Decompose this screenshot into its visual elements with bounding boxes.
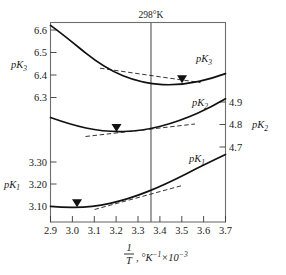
left-axis-lower-ticklabels: 3.30 3.20 3.10 bbox=[29, 157, 47, 213]
left-tick-label: 6.5 bbox=[34, 47, 47, 58]
x-tick-label: 2.9 bbox=[44, 225, 57, 236]
left-axis-lower-title: pK1 bbox=[3, 179, 20, 193]
x-tick-label: 3.1 bbox=[88, 225, 101, 236]
x-axis-title: 1 T , °K−1×10−3 bbox=[124, 242, 188, 266]
x-tick-label: 3.3 bbox=[131, 225, 144, 236]
right-tick-label: 4.7 bbox=[229, 142, 242, 153]
x-tick-label: 3.2 bbox=[110, 225, 123, 236]
x-tick-label: 3.6 bbox=[197, 225, 210, 236]
left-tick-label: 6.3 bbox=[34, 92, 47, 103]
x-axis-title-numerator: 1 bbox=[126, 242, 131, 253]
left-tick-label: 3.30 bbox=[29, 157, 47, 168]
x-axis-title-units: , °K−1×10−3 bbox=[136, 250, 188, 263]
x-tick-label: 3.0 bbox=[66, 225, 79, 236]
right-axis-title: pK2 bbox=[251, 119, 268, 133]
left-tick-label: 3.20 bbox=[29, 179, 47, 190]
pk-vs-inverse-temperature-chart: 6.6 6.5 6.4 6.3 pK3 3.30 3.20 3.10 pK1 4… bbox=[0, 0, 286, 275]
left-tick-label: 6.6 bbox=[34, 25, 47, 36]
left-tick-label: 3.10 bbox=[29, 201, 47, 212]
x-tick-label: 3.5 bbox=[175, 225, 188, 236]
figure-container: 6.6 6.5 6.4 6.3 pK3 3.30 3.20 3.10 pK1 4… bbox=[0, 0, 286, 275]
x-tick-marks bbox=[51, 216, 226, 222]
pk1-tangent-line bbox=[95, 186, 182, 210]
x-axis-title-denominator: T bbox=[126, 255, 133, 266]
right-axis-ticklabels: 4.9 4.8 4.7 bbox=[229, 97, 242, 153]
pk3-curve-label: pK3 bbox=[195, 53, 212, 67]
x-axis-ticklabels: 2.9 3.0 3.1 3.2 3.3 3.4 3.5 3.6 3.7 bbox=[44, 225, 232, 236]
x-tick-label: 3.7 bbox=[219, 225, 232, 236]
temperature-annotation-label: 298°K bbox=[139, 10, 164, 20]
right-tick-label: 4.8 bbox=[229, 119, 242, 130]
left-axis-upper-ticklabels: 6.6 6.5 6.4 6.3 bbox=[34, 25, 48, 104]
right-tick-label: 4.9 bbox=[229, 97, 242, 108]
x-tick-label: 3.4 bbox=[153, 225, 167, 236]
left-tick-label: 6.4 bbox=[34, 70, 48, 81]
pk1-curve-label: pK1 bbox=[188, 153, 205, 167]
right-tick-marks bbox=[220, 102, 226, 147]
pk1-data-marker bbox=[72, 199, 82, 207]
left-axis-upper-title: pK3 bbox=[10, 59, 27, 73]
pk2-curve-label: pK2 bbox=[191, 97, 208, 111]
